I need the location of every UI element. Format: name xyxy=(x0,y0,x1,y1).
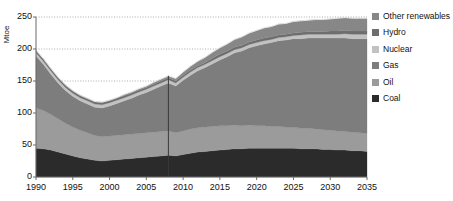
x-tick-label: 2030 xyxy=(310,182,350,192)
legend-swatch-icon xyxy=(372,46,379,53)
legend-swatch-icon xyxy=(372,62,379,69)
x-tick-label: 2035 xyxy=(347,182,387,192)
legend-item-label: Coal xyxy=(383,94,400,103)
y-tick-label: 0 xyxy=(2,172,32,181)
x-tick-label: 2020 xyxy=(237,182,277,192)
x-tick-label: 1995 xyxy=(53,182,93,192)
x-tick-label: 2015 xyxy=(200,182,240,192)
chart-legend: Other renewablesHydroNuclearGasOilCoal xyxy=(372,8,450,107)
y-tick-label: 100 xyxy=(2,108,32,117)
legend-swatch-icon xyxy=(372,95,379,102)
y-tick-label: 250 xyxy=(2,12,32,21)
energy-mix-stacked-area-chart: Mtoe 050100150200250 1990199520002005201… xyxy=(0,0,453,201)
area-band-gas xyxy=(36,38,367,137)
legend-item-label: Nuclear xyxy=(383,45,412,54)
legend-item-label: Hydro xyxy=(383,28,406,37)
x-tick-label: 2025 xyxy=(273,182,313,192)
legend-swatch-icon xyxy=(372,13,379,20)
legend-swatch-icon xyxy=(372,29,379,36)
legend-item[interactable]: Gas xyxy=(372,58,450,75)
legend-item-label: Gas xyxy=(383,61,399,70)
y-tick-label: 50 xyxy=(2,140,32,149)
legend-item[interactable]: Coal xyxy=(372,91,450,108)
x-tick-label: 2010 xyxy=(163,182,203,192)
legend-item[interactable]: Hydro xyxy=(372,25,450,42)
legend-item[interactable]: Oil xyxy=(372,74,450,91)
y-tick-label: 200 xyxy=(2,44,32,53)
legend-item[interactable]: Other renewables xyxy=(372,8,450,25)
legend-item-label: Oil xyxy=(383,78,393,87)
legend-item[interactable]: Nuclear xyxy=(372,41,450,58)
x-tick-label: 1990 xyxy=(16,182,56,192)
legend-item-label: Other renewables xyxy=(383,12,450,21)
y-tick-label: 150 xyxy=(2,76,32,85)
legend-swatch-icon xyxy=(372,79,379,86)
x-tick-label: 2005 xyxy=(126,182,166,192)
x-tick-label: 2000 xyxy=(90,182,130,192)
